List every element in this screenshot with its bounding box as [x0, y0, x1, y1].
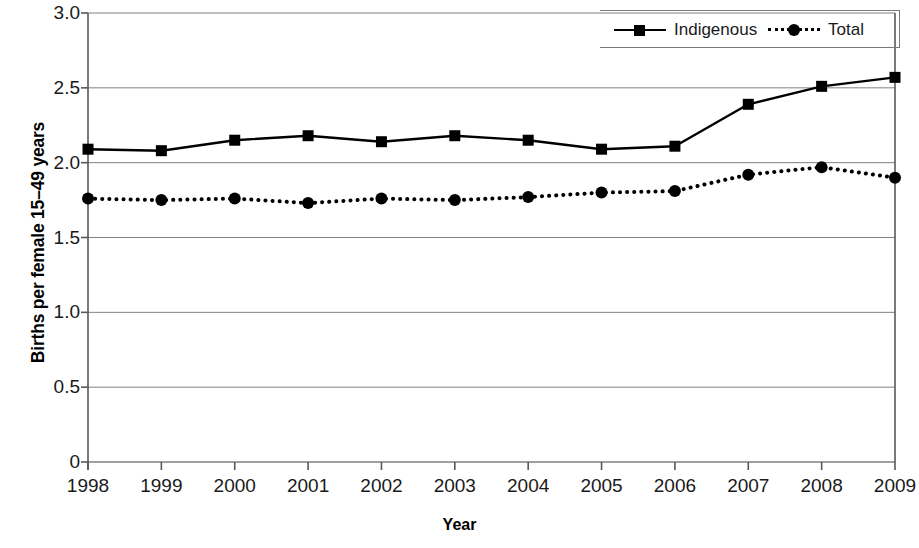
x-tick-label-2008: 2008 [782, 476, 862, 496]
series-line-total [88, 167, 895, 203]
chart-legend: Indigenous Total [600, 10, 900, 48]
marker-indigenous-2000 [229, 135, 240, 146]
marker-indigenous-2004 [523, 135, 534, 146]
x-tick-label-1999: 1999 [121, 476, 201, 496]
x-tick-label-2007: 2007 [708, 476, 788, 496]
marker-total-2002 [375, 193, 387, 205]
legend-item-indigenous: Indigenous [614, 18, 757, 42]
x-tick-label-2003: 2003 [415, 476, 495, 496]
marker-indigenous-2002 [376, 136, 387, 147]
marker-total-2001 [302, 197, 314, 209]
x-tick-label-2004: 2004 [488, 476, 568, 496]
marker-indigenous-2009 [890, 72, 901, 83]
gridlines [88, 13, 895, 462]
marker-indigenous-2006 [669, 141, 680, 152]
marker-total-2005 [596, 187, 608, 199]
marker-total-2000 [229, 193, 241, 205]
marker-total-2004 [522, 191, 534, 203]
marker-total-1998 [82, 193, 94, 205]
marker-total-2008 [816, 161, 828, 173]
marker-total-2007 [742, 169, 754, 181]
marker-indigenous-2008 [816, 81, 827, 92]
axis-lines [88, 13, 895, 470]
marker-total-1999 [155, 194, 167, 206]
plot-area [0, 0, 919, 548]
marker-indigenous-2007 [743, 99, 754, 110]
legend-swatch-dotted-circle-icon [768, 23, 820, 37]
legend-item-total: Total [768, 18, 864, 42]
marker-total-2006 [669, 185, 681, 197]
x-tick-label-2001: 2001 [268, 476, 348, 496]
x-tick-label-2002: 2002 [341, 476, 421, 496]
legend-label-total: Total [828, 20, 864, 40]
marker-indigenous-1999 [156, 145, 167, 156]
x-tick-label-2009: 2009 [855, 476, 919, 496]
marker-indigenous-1998 [83, 144, 94, 155]
x-tick-label-1998: 1998 [48, 476, 128, 496]
legend-swatch-solid-square-icon [614, 23, 666, 37]
marker-indigenous-2003 [449, 130, 460, 141]
legend-label-indigenous: Indigenous [674, 20, 757, 40]
marker-indigenous-2001 [303, 130, 314, 141]
x-tick-label-2005: 2005 [562, 476, 642, 496]
data-series-layer [82, 72, 901, 209]
chart-figure: Births per female 15–49 years 00.51.01.5… [0, 0, 919, 548]
tick-marks [81, 13, 895, 470]
x-axis-title: Year [0, 516, 919, 534]
x-tick-label-2000: 2000 [195, 476, 275, 496]
marker-total-2009 [889, 172, 901, 184]
marker-indigenous-2005 [596, 144, 607, 155]
series-line-indigenous [88, 77, 895, 150]
marker-total-2003 [449, 194, 461, 206]
x-tick-label-2006: 2006 [635, 476, 715, 496]
